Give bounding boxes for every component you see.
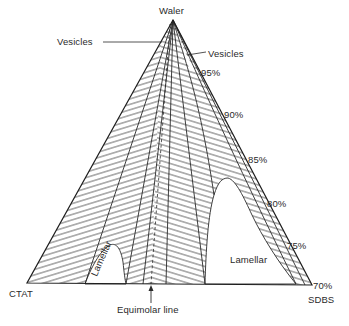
vertex-label-water: Waler bbox=[159, 6, 184, 16]
region-label-lamellar-right: Lamellar bbox=[230, 255, 267, 265]
tick-label-75: 75% bbox=[287, 241, 306, 251]
annotation-equimolar-line: Equimolar line bbox=[117, 305, 179, 315]
tick-label-90: 90% bbox=[224, 110, 243, 120]
vertex-label-sdbs: SDBS bbox=[308, 295, 334, 305]
region-label-vesicles-left: Vesicles bbox=[57, 37, 93, 47]
tick-label-80: 80% bbox=[267, 199, 286, 209]
equimolar-arrow-icon bbox=[149, 285, 154, 303]
tick-label-95: 95% bbox=[201, 68, 220, 78]
tick-label-85: 85% bbox=[248, 155, 267, 165]
ternary-phase-diagram bbox=[0, 0, 349, 326]
tick-label-70: 70% bbox=[313, 281, 332, 291]
region-label-vesicles-right: Vesicles bbox=[208, 49, 244, 59]
vertex-label-ctat: CTAT bbox=[9, 289, 33, 299]
